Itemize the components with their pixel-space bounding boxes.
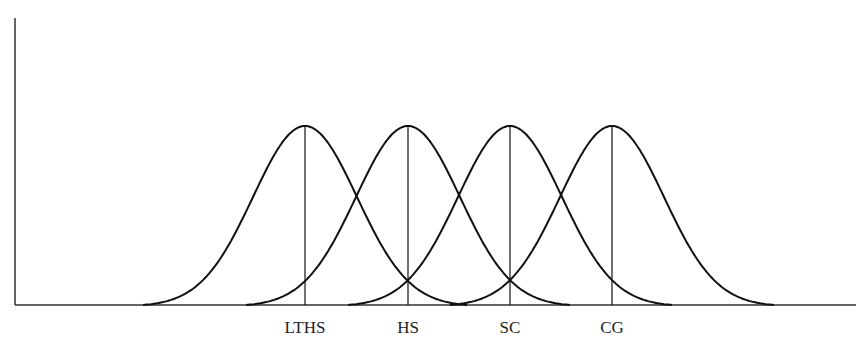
label-lths: LTHS [285,318,326,337]
label-sc: SC [500,318,521,337]
distribution-curves [143,126,774,305]
label-hs: HS [397,318,419,337]
distribution-diagram: LTHS HS SC CG [0,0,862,348]
mean-lines [305,126,612,305]
label-cg: CG [600,318,624,337]
